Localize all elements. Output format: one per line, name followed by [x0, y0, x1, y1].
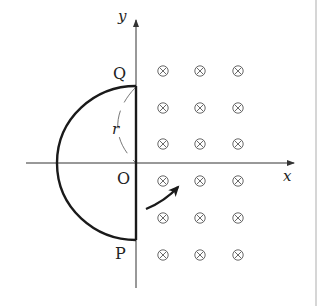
origin-label: O	[117, 169, 130, 188]
point-q-label: Q	[113, 64, 126, 83]
radius-label: r	[112, 120, 120, 138]
rotation-arrow	[146, 187, 178, 209]
field-into-page-icon	[195, 250, 205, 260]
field-into-page-icon	[233, 213, 243, 223]
field-into-page-icon	[233, 250, 243, 260]
field-into-page-icon	[158, 250, 168, 260]
field-into-page-icon	[158, 176, 168, 186]
field-into-page-icon	[195, 176, 205, 186]
radius-indicator-arc	[118, 88, 135, 162]
field-into-page-icon	[195, 139, 205, 149]
field-into-page-icon	[158, 213, 168, 223]
field-into-page-icon	[233, 176, 243, 186]
field-into-page-icon	[195, 213, 205, 223]
x-axis-label: x	[283, 167, 292, 185]
field-into-page-icon	[158, 139, 168, 149]
physics-diagram: y x Q P O r	[0, 0, 318, 306]
y-axis-label: y	[117, 7, 127, 25]
field-into-page-icon	[195, 66, 205, 76]
field-into-page-icon	[233, 139, 243, 149]
field-into-page-icon	[158, 66, 168, 76]
point-p-label: P	[115, 244, 126, 263]
field-into-page-icon	[233, 66, 243, 76]
field-into-page-icon	[233, 103, 243, 113]
field-into-page-icon	[158, 103, 168, 113]
field-into-page-icon	[195, 103, 205, 113]
